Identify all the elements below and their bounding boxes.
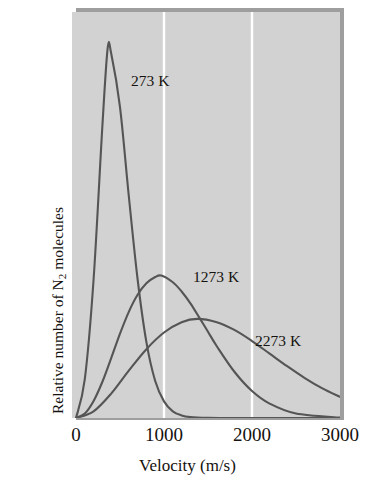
curve-group — [76, 42, 340, 418]
x-tick-label-1000: 1000 — [145, 424, 183, 446]
chart-figure: Relative number of N2 molecules with giv… — [0, 0, 375, 500]
plot-area — [72, 12, 340, 418]
curve-label-2273-k: 2273 K — [255, 332, 301, 350]
y-axis-label-line1-part1: Relative number of N — [49, 279, 66, 414]
y-axis-label-container: Relative number of N2 molecules with giv… — [0, 0, 72, 440]
curve-label-273-k: 273 K — [131, 72, 169, 90]
y-axis-label-subscript: 2 — [56, 274, 68, 280]
x-tick-label-0: 0 — [71, 424, 81, 446]
curve-273K — [76, 42, 340, 418]
y-axis-label-line1-part2: molecules — [49, 207, 66, 274]
x-tick-label-3000: 3000 — [321, 424, 359, 446]
plot-panel — [72, 12, 340, 418]
curve-label-1273-k: 1273 K — [193, 268, 239, 286]
x-tick-label-2000: 2000 — [233, 424, 271, 446]
x-axis-label: Velocity (m/s) — [0, 456, 375, 476]
gridlines — [164, 12, 252, 418]
